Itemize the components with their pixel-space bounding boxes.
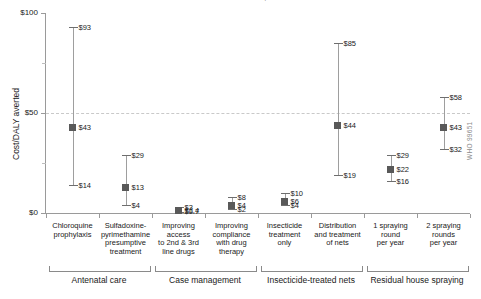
category-label: 2 sprayingroundsper year (417, 222, 470, 248)
group-bracket (49, 266, 151, 272)
point-value-label: $13 (132, 183, 145, 192)
x-tick (417, 214, 418, 218)
category-label: Sulfadoxine-pyrimethaminepresumptivetrea… (99, 222, 152, 256)
high-cap (228, 197, 237, 198)
category-label-line: per year (364, 239, 417, 248)
category-label: 1 sprayingroundper year (364, 222, 417, 248)
value-marker (281, 198, 288, 205)
y-tick-label: $50 (0, 108, 38, 117)
threshold-line (46, 113, 470, 114)
source-label: WHO 99651 (466, 122, 473, 160)
x-tick (258, 214, 259, 218)
group-label: Insecticide-treated nets (261, 275, 361, 285)
low-value-label: $4 (291, 201, 299, 210)
x-tick (364, 214, 365, 218)
category-label-line: only (258, 239, 311, 248)
high-value-label: $58 (450, 93, 463, 102)
low-cap (440, 149, 449, 150)
high-cap (387, 155, 396, 156)
category-label: Insecticidetreatmentonly (258, 222, 311, 248)
value-marker (440, 124, 447, 131)
y-tick-label: $0 (0, 208, 38, 217)
category-label-line: prophylaxis (46, 231, 99, 240)
category-label: Chloroquineprophylaxis (46, 222, 99, 239)
value-marker (334, 122, 341, 129)
low-value-label: $14 (79, 181, 92, 190)
y-tick-minor (42, 163, 46, 164)
category-label-line: line drugs (152, 248, 205, 257)
point-value-label: $43 (79, 123, 92, 132)
low-cap (122, 205, 131, 206)
high-cap (440, 97, 449, 98)
x-tick (46, 214, 47, 218)
range-whisker (73, 27, 74, 185)
high-cap (281, 193, 290, 194)
value-marker (122, 184, 129, 191)
group-label: Antenatal care (49, 275, 149, 285)
category-label: Improvingcompliancewith drugtherapy (205, 222, 258, 256)
low-cap (228, 209, 237, 210)
category-label-line: therapy (205, 248, 258, 257)
x-tick (99, 214, 100, 218)
group-bracket (367, 266, 469, 272)
point-value-label: $44 (344, 121, 357, 130)
point-value-label: $22 (397, 165, 410, 174)
low-cap (281, 205, 290, 206)
low-cap (334, 175, 343, 176)
category-label-line: treatment (99, 248, 152, 257)
range-whisker (338, 43, 339, 175)
x-tick (311, 214, 312, 218)
point-value-label: $43 (450, 123, 463, 132)
category-label-line: per year (417, 239, 470, 248)
low-value-label: $4 (132, 201, 140, 210)
y-tick-label: $100 (0, 8, 38, 17)
chart-title: Cost-effectiveness of malaria interventi… (60, 0, 400, 1)
high-cap (69, 27, 78, 28)
value-marker (69, 124, 76, 131)
value-marker (175, 207, 182, 214)
low-value-label: $2 (238, 205, 246, 214)
low-cap (387, 181, 396, 182)
group-bracket (155, 266, 257, 272)
x-tick (205, 214, 206, 218)
y-tick-minor (42, 63, 46, 64)
low-value-label: $19 (344, 171, 357, 180)
category-label: Improvingaccessto 2nd & 3rdline drugs (152, 222, 205, 256)
category-label: Distributionand treatmentof nets (311, 222, 364, 248)
low-value-label: $16 (397, 177, 410, 186)
group-label: Residual house spraying (367, 275, 467, 285)
high-value-label: $85 (344, 39, 357, 48)
high-value-label: $29 (397, 151, 410, 160)
high-cap (334, 43, 343, 44)
low-value-label: $32 (450, 145, 463, 154)
chart-root: Cost-effectiveness of malaria interventi… (0, 0, 481, 299)
x-tick (152, 214, 153, 218)
y-tick-major (41, 13, 46, 14)
group-label: Case management (155, 275, 255, 285)
value-marker (228, 202, 235, 209)
group-bracket (261, 266, 363, 272)
low-value-label: $0.7 (185, 207, 200, 216)
range-whisker (126, 155, 127, 205)
x-tick (470, 214, 471, 218)
high-value-label: $29 (132, 151, 145, 160)
value-marker (387, 166, 394, 173)
high-value-label: $93 (79, 23, 92, 32)
high-cap (122, 155, 131, 156)
category-label-line: of nets (311, 239, 364, 248)
low-cap (69, 185, 78, 186)
y-axis-title: Cost/DALY averted (11, 88, 21, 160)
